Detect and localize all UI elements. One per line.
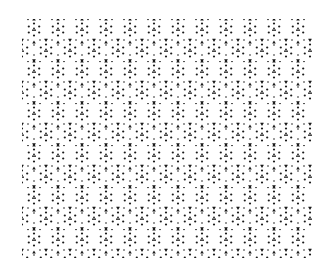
pattern-canvas: Black-on-white decorative tessellation o… [0,0,331,276]
dot-tessellation-pattern [0,0,331,276]
pattern-fill [22,19,312,258]
